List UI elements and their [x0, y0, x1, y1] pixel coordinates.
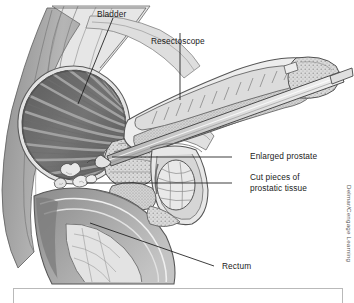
- label-enlarged-prostate: Enlarged prostate: [250, 151, 317, 162]
- label-cut-pieces-line2: prostatic tissue: [250, 183, 307, 193]
- label-resectoscope: Resectoscope: [151, 36, 205, 47]
- caption-box: [13, 288, 343, 303]
- copyright-credit: Delmar/Cengage Learning: [346, 185, 353, 262]
- label-cut-pieces: Cut pieces ofprostatic tissue: [250, 172, 307, 193]
- label-bladder: Bladder: [97, 9, 126, 20]
- label-cut-pieces-line1: Cut pieces of: [250, 172, 300, 182]
- label-rectum: Rectum: [222, 261, 251, 272]
